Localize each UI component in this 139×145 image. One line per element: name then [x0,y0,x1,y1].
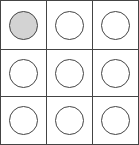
empty-circle-icon [101,59,130,88]
empty-circle-icon [101,106,130,135]
board-cell-r0-c2[interactable] [93,1,138,50]
empty-circle-icon [9,59,38,88]
empty-circle-icon [9,106,38,135]
board-cell-r1-c0[interactable] [1,50,47,97]
empty-circle-icon [55,59,84,88]
game-board [0,0,139,145]
empty-circle-icon [55,11,84,40]
board-cell-r1-c2[interactable] [93,50,138,97]
board-cell-r2-c0[interactable] [1,97,47,144]
board-cell-r0-c1[interactable] [47,1,93,50]
empty-circle-icon [101,11,130,40]
empty-circle-icon [55,106,84,135]
board-cell-r2-c1[interactable] [47,97,93,144]
board-cell-r2-c2[interactable] [93,97,138,144]
board-cell-r0-c0[interactable] [1,1,47,50]
board-cell-r1-c1[interactable] [47,50,93,97]
filled-circle-icon [9,11,38,40]
